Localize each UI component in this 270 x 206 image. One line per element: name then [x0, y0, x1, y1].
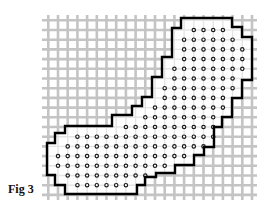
dot	[231, 57, 234, 60]
dot	[163, 154, 166, 157]
dot	[221, 48, 224, 51]
grid-diagram	[0, 0, 270, 206]
dot	[144, 145, 147, 148]
dot	[66, 174, 69, 177]
dot	[182, 77, 185, 80]
dot	[221, 77, 224, 80]
dot	[212, 116, 215, 119]
dot	[115, 164, 118, 167]
dot	[173, 106, 176, 109]
dot	[163, 125, 166, 128]
dot	[95, 184, 98, 187]
dot	[241, 57, 244, 60]
dot	[221, 96, 224, 99]
dot	[144, 125, 147, 128]
dot	[144, 135, 147, 138]
dot	[105, 174, 108, 177]
dot	[115, 154, 118, 157]
dot	[221, 57, 224, 60]
dot	[221, 106, 224, 109]
dot	[85, 184, 88, 187]
dot	[192, 28, 195, 31]
dot	[173, 116, 176, 119]
dot	[85, 145, 88, 148]
figure-label: Fig 3	[8, 182, 34, 196]
dot	[85, 135, 88, 138]
dot	[192, 96, 195, 99]
dot	[173, 77, 176, 80]
dot	[202, 87, 205, 90]
dot	[241, 48, 244, 51]
dot	[202, 106, 205, 109]
dot	[124, 145, 127, 148]
dot	[144, 154, 147, 157]
dot	[221, 38, 224, 41]
dot	[182, 96, 185, 99]
dot	[95, 145, 98, 148]
dot	[173, 135, 176, 138]
dot	[153, 116, 156, 119]
dot	[192, 87, 195, 90]
dot	[76, 154, 79, 157]
dot	[124, 174, 127, 177]
dot	[192, 77, 195, 80]
dot	[56, 154, 59, 157]
dot	[221, 87, 224, 90]
dot	[76, 135, 79, 138]
dot	[95, 164, 98, 167]
dot	[212, 77, 215, 80]
dot	[202, 38, 205, 41]
dot	[182, 48, 185, 51]
dot	[192, 145, 195, 148]
dot	[153, 106, 156, 109]
dot	[173, 96, 176, 99]
dot	[144, 116, 147, 119]
dot	[105, 135, 108, 138]
dot	[66, 154, 69, 157]
dot	[153, 125, 156, 128]
dot	[124, 154, 127, 157]
dot	[182, 57, 185, 60]
dot	[134, 174, 137, 177]
dot	[134, 154, 137, 157]
dot	[173, 125, 176, 128]
dot	[134, 125, 137, 128]
dot	[105, 145, 108, 148]
dot	[76, 145, 79, 148]
dot	[95, 154, 98, 157]
dot	[212, 48, 215, 51]
dot	[66, 145, 69, 148]
dot	[76, 174, 79, 177]
dot	[231, 77, 234, 80]
dot	[202, 135, 205, 138]
dot	[76, 184, 79, 187]
dot	[66, 164, 69, 167]
dot	[192, 57, 195, 60]
dot	[202, 116, 205, 119]
dot	[192, 48, 195, 51]
dot	[173, 145, 176, 148]
dot	[173, 67, 176, 70]
dot	[192, 67, 195, 70]
dot	[241, 67, 244, 70]
dot	[182, 116, 185, 119]
dot	[173, 154, 176, 157]
dot	[182, 125, 185, 128]
dot	[115, 145, 118, 148]
dot	[173, 87, 176, 90]
dot	[153, 135, 156, 138]
dot	[163, 164, 166, 167]
dot	[163, 106, 166, 109]
dot	[56, 164, 59, 167]
dot	[212, 106, 215, 109]
dot	[163, 87, 166, 90]
dot	[85, 154, 88, 157]
dot	[212, 67, 215, 70]
dot	[115, 184, 118, 187]
dot	[124, 164, 127, 167]
dot	[163, 145, 166, 148]
dot	[192, 106, 195, 109]
dot	[105, 184, 108, 187]
dot	[105, 164, 108, 167]
dot	[202, 77, 205, 80]
